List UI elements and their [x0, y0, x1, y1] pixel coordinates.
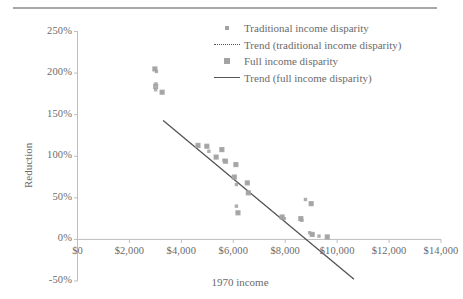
legend-label: Traditional income disparity	[244, 20, 369, 37]
legend-solid-line-icon	[214, 77, 240, 78]
legend-key	[210, 53, 244, 70]
data-point-traditional	[309, 202, 312, 205]
data-point-traditional	[246, 181, 249, 184]
legend-item: Trend (traditional income disparity)	[210, 37, 442, 54]
legend-key	[210, 70, 244, 87]
data-point-traditional	[247, 191, 250, 194]
x-tick-label: $14,000	[411, 245, 463, 256]
data-point-traditional	[235, 204, 238, 207]
y-tick-label: 200%	[30, 66, 72, 77]
data-point-traditional	[300, 219, 303, 222]
data-point-traditional	[235, 183, 238, 186]
data-point-traditional	[155, 70, 158, 73]
data-point-traditional	[205, 145, 208, 148]
legend-label: Trend (full income disparity)	[244, 70, 372, 87]
data-point-traditional	[234, 163, 237, 166]
legend-key	[210, 37, 244, 54]
legend-key	[210, 20, 244, 37]
y-tick-label: 100%	[30, 149, 72, 160]
data-point-traditional	[196, 144, 199, 147]
legend-label: Full income disparity	[244, 53, 338, 70]
legend-item: Full income disparity	[210, 53, 442, 70]
data-point-traditional	[326, 235, 329, 238]
legend-label: Trend (traditional income disparity)	[244, 37, 402, 54]
data-point-traditional	[304, 198, 307, 201]
y-tick-label: 0%	[30, 232, 72, 243]
y-tick-label: -50%	[30, 274, 72, 285]
legend-dotted-line-icon	[214, 44, 240, 45]
data-point-traditional	[236, 211, 239, 214]
legend-marker-small-square-icon	[225, 26, 229, 30]
legend-marker-large-square-icon	[224, 58, 230, 64]
data-point-traditional	[214, 155, 217, 158]
y-tick-label: 250%	[30, 25, 72, 36]
data-point-traditional	[207, 150, 210, 153]
data-point-traditional	[160, 91, 163, 94]
data-point-traditional	[233, 175, 236, 178]
data-point-traditional	[154, 88, 157, 91]
chart-legend: Traditional income disparityTrend (tradi…	[210, 20, 442, 86]
data-point-traditional	[317, 234, 320, 237]
x-axis-title: 1970 income	[180, 276, 300, 288]
y-tick-label: 50%	[30, 191, 72, 202]
data-point-traditional	[311, 233, 314, 236]
data-point-traditional	[220, 148, 223, 151]
legend-item: Trend (full income disparity)	[210, 70, 442, 87]
data-point-traditional	[282, 217, 285, 220]
y-tick-label: 150%	[30, 108, 72, 119]
data-point-traditional	[224, 160, 227, 163]
data-point-traditional	[154, 82, 157, 85]
legend-item: Traditional income disparity	[210, 20, 442, 37]
